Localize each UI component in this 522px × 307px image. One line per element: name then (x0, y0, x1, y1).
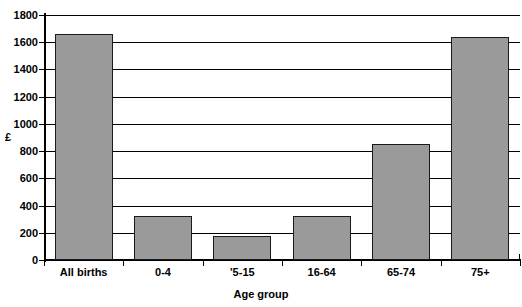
x-axis-tick-mark (441, 261, 442, 266)
bar (293, 216, 351, 260)
bar (134, 216, 192, 260)
bar (55, 34, 113, 260)
bar (451, 37, 509, 260)
x-axis-tick-mark (44, 261, 45, 266)
x-axis-category-label: 16-64 (308, 266, 336, 278)
y-axis-tick-label: 1400 (0, 64, 38, 75)
x-axis-category-label: 65-74 (387, 266, 415, 278)
gridline (44, 42, 520, 43)
x-axis-tick-mark (361, 261, 362, 266)
gridline (44, 233, 520, 234)
x-axis-tick-mark (282, 261, 283, 266)
gridline (44, 15, 520, 16)
y-axis-tick-label: 800 (0, 146, 38, 157)
x-axis-category-label: All births (60, 266, 108, 278)
x-axis-tick-mark (123, 261, 124, 266)
bar (213, 236, 271, 261)
x-axis-category-label: 75+ (471, 266, 490, 278)
gridline (44, 178, 520, 179)
x-axis-category-label: 0-4 (155, 266, 171, 278)
x-axis-tick-mark (520, 261, 521, 266)
y-axis-tick-label: 1600 (0, 37, 38, 48)
gridline (44, 206, 520, 207)
x-axis-category-label: '5-15 (230, 266, 255, 278)
bar (372, 144, 430, 260)
y-axis-tick-label: 400 (0, 200, 38, 211)
y-axis-tick-labels: 020040060080010001200140016001800 (0, 0, 38, 307)
gridline (44, 97, 520, 98)
x-axis-title: Age group (0, 288, 522, 300)
y-axis-tick-label: 1800 (0, 10, 38, 21)
x-axis-tick-mark (203, 261, 204, 266)
y-axis-tick-label: 600 (0, 173, 38, 184)
y-axis-tick-label: 0 (0, 255, 38, 266)
gridline (44, 69, 520, 70)
gridline (44, 151, 520, 152)
y-axis-tick-label: 1000 (0, 118, 38, 129)
y-axis-tick-label: 200 (0, 227, 38, 238)
y-axis-tick-label: 1200 (0, 91, 38, 102)
bar-chart: 020040060080010001200140016001800 £ All … (0, 0, 522, 307)
y-axis-title: £ (5, 131, 11, 143)
gridline (44, 124, 520, 125)
plot-area (44, 15, 520, 260)
